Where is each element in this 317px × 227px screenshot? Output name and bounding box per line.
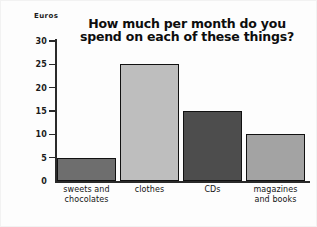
category-label-1-line-1: clothes <box>135 185 165 194</box>
y-tick-label-25: 25 <box>25 60 47 69</box>
bar-3 <box>246 134 305 181</box>
plot-area: 051015202530 sweets andchocolatesclothes… <box>1 1 317 227</box>
category-label-0-line-2: chocolates <box>51 195 122 205</box>
y-tick-mark-20 <box>49 87 55 88</box>
category-label-0-line-1: sweets and <box>63 185 109 194</box>
category-label-3: magazinesand books <box>240 185 311 204</box>
category-label-3-line-2: and books <box>240 195 311 205</box>
x-axis-line <box>55 181 310 183</box>
category-label-3-line-1: magazines <box>253 185 297 194</box>
y-tick-label-15: 15 <box>25 107 47 116</box>
bar-chart-figure: Euros How much per month do you spend on… <box>0 0 317 227</box>
category-label-0: sweets andchocolates <box>51 185 122 204</box>
y-tick-mark-30 <box>49 40 55 41</box>
bar-0 <box>57 158 116 181</box>
y-tick-mark-5 <box>49 157 55 158</box>
y-tick-mark-25 <box>49 64 55 65</box>
bar-2 <box>183 111 242 181</box>
y-tick-label-20: 20 <box>25 83 47 92</box>
y-tick-mark-10 <box>49 134 55 135</box>
y-tick-label-10: 10 <box>25 130 47 139</box>
y-tick-label-5: 5 <box>25 153 47 162</box>
category-label-2-line-1: CDs <box>204 185 220 194</box>
category-label-1: clothes <box>114 185 185 195</box>
y-tick-label-30: 30 <box>25 37 47 46</box>
category-label-2: CDs <box>177 185 248 195</box>
y-tick-mark-15 <box>49 110 55 111</box>
y-tick-label-0: 0 <box>25 177 47 186</box>
bar-1 <box>120 64 179 181</box>
